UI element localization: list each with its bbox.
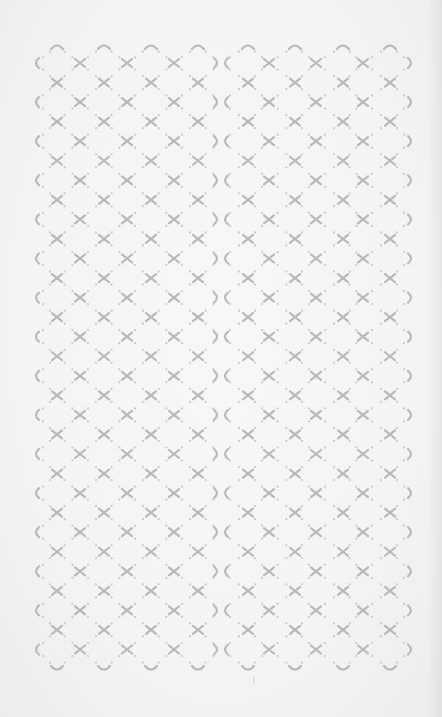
dot [261,368,263,370]
dot [285,153,287,155]
arc-right-icon [214,175,217,185]
dot [254,661,256,663]
dot [285,51,287,53]
dot [403,342,405,344]
dot [95,622,97,624]
dot [71,290,73,292]
dot [165,251,167,253]
dot [261,564,263,566]
dot [205,557,207,559]
dot [49,427,51,429]
cross-icon [122,489,132,497]
dot [396,270,398,272]
dot [87,329,89,331]
dot [261,134,263,136]
cross-icon [311,59,321,67]
cross-icon [243,391,253,399]
dot [308,173,310,175]
dot [254,153,256,155]
dot [355,173,357,175]
dot [238,544,240,546]
dot [181,446,183,448]
cross-icon [169,255,179,263]
dot [142,166,144,168]
dot [165,407,167,409]
dot [261,108,263,110]
cross-icon [290,352,300,360]
dot [333,88,335,90]
dot [349,127,351,129]
dot [189,88,191,90]
dot [181,642,183,644]
dot [111,427,113,429]
dot [212,368,214,370]
dot [403,94,405,96]
dot [118,368,120,370]
arc-right-icon [214,645,217,655]
cross-icon [52,118,62,126]
dot [118,564,120,566]
dot [308,329,310,331]
dot [380,192,382,194]
cross-icon [146,157,156,165]
dot [87,525,89,527]
cross-icon [311,215,321,223]
dot [285,231,287,233]
dot [64,518,66,520]
dot [349,283,351,285]
dot [324,342,326,344]
dot [64,362,66,364]
arc-right-icon [214,566,217,576]
dot [189,518,191,520]
dot [71,485,73,487]
dot [158,518,160,520]
cross-icon [290,79,300,87]
dot [308,420,310,422]
arc-left-icon [225,449,228,459]
dot [308,446,310,448]
dot [238,583,240,585]
dot [118,407,120,409]
dot [254,635,256,637]
cross-icon [290,196,300,204]
dot [277,499,279,501]
dot [301,505,303,507]
dot [49,622,51,624]
dot [181,603,183,605]
dot [333,127,335,129]
dot [71,212,73,214]
dot [87,538,89,540]
dot [349,388,351,390]
dot [71,251,73,253]
cross-icon [52,352,62,360]
dot [403,420,405,422]
dot [189,557,191,559]
dot [403,368,405,370]
dot [229,577,231,579]
dot [333,362,335,364]
dot [111,544,113,546]
dot [87,290,89,292]
dot [49,401,51,403]
dot [118,485,120,487]
dot [324,499,326,501]
dot [308,459,310,461]
cross-icon [99,470,109,478]
dot [285,283,287,285]
dot [238,635,240,637]
dot [49,557,51,559]
dot [95,75,97,77]
cross-icon [146,587,156,595]
cross-icon [52,626,62,634]
arc-left-icon [225,371,228,381]
cross-icon [169,450,179,458]
dot [181,212,183,214]
dot [205,544,207,546]
dot [158,205,160,207]
dot [181,290,183,292]
dot [277,485,279,487]
dot [261,56,263,58]
dot [95,192,97,194]
cross-icon [264,372,274,380]
dot [111,153,113,155]
